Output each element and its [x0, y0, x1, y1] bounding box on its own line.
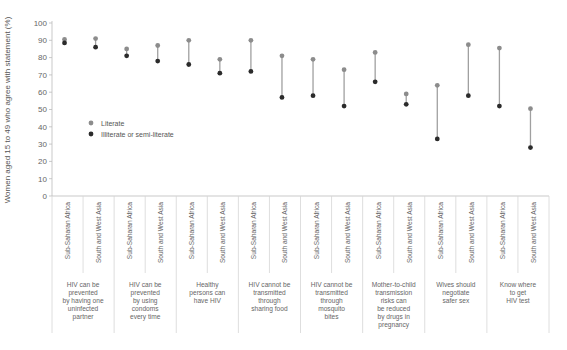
illiterate-point [280, 95, 285, 100]
literate-point [373, 50, 378, 55]
illiterate-point [528, 145, 533, 150]
group-label: HIV cannot betransmittedthroughsharing f… [249, 281, 291, 313]
illiterate-point [249, 69, 254, 74]
dumbbell [280, 53, 285, 99]
y-tick-label: 40 [38, 123, 47, 132]
region-label: South and West Asia [530, 202, 537, 263]
region-label: Sub-Saharan Africa [499, 202, 506, 260]
y-tick-label: 50 [38, 105, 47, 114]
region-label: South and West Asia [344, 202, 351, 263]
literate-point [342, 67, 347, 72]
illiterate-point [466, 93, 471, 98]
dumbbell [373, 50, 378, 84]
region-label: Sub-Saharan Africa [250, 202, 257, 260]
legend-label-literate: Literate [101, 120, 124, 127]
dumbbell [93, 36, 98, 49]
illiterate-point [311, 93, 316, 98]
literate-point [249, 38, 254, 43]
group-label: Mother-to-childtransmissionrisks canbe r… [372, 281, 416, 329]
region-label: South and West Asia [219, 202, 226, 263]
dumbbell [186, 38, 191, 67]
y-tick-label: 90 [38, 36, 47, 45]
illiterate-point [155, 59, 160, 64]
dumbbell [404, 92, 409, 107]
illiterate-point [497, 104, 502, 109]
illiterate-point [404, 102, 409, 107]
dumbbell [311, 57, 316, 98]
legend-label-illiterate: Illiterate or semi-literate [101, 131, 174, 138]
illiterate-point [62, 40, 67, 45]
region-label: Sub-Saharan Africa [375, 202, 382, 260]
legend-marker-illiterate [89, 132, 94, 137]
x-axis: Sub-Saharan AfricaSouth and West AsiaHIV… [52, 196, 549, 333]
y-tick-label: 0 [43, 192, 48, 201]
dumbbell [155, 43, 160, 63]
region-label: South and West Asia [157, 202, 164, 263]
region-label: South and West Asia [468, 202, 475, 263]
dumbbell [497, 46, 502, 109]
group-label: HIV cannot betransmittedthroughmosquitob… [311, 281, 353, 320]
dumbbell [528, 106, 533, 150]
group-label: Wives shouldnegotiatesafer sex [436, 281, 476, 304]
illiterate-point [93, 45, 98, 50]
literate-point [280, 53, 285, 58]
dumbbell [62, 37, 67, 45]
region-label: Sub-Saharan Africa [64, 202, 71, 260]
region-label: South and West Asia [95, 202, 102, 263]
illiterate-point [186, 62, 191, 67]
region-label: South and West Asia [281, 202, 288, 263]
region-label: Sub-Saharan Africa [126, 202, 133, 260]
y-tick-label: 30 [38, 140, 47, 149]
legend-marker-literate [89, 121, 94, 126]
illiterate-point [217, 71, 222, 76]
dumbbell [124, 47, 129, 59]
y-tick-label: 70 [38, 71, 47, 80]
y-tick-label: 60 [38, 88, 47, 97]
region-label: Sub-Saharan Africa [188, 202, 195, 260]
region-label: Sub-Saharan Africa [437, 202, 444, 260]
dumbbell [435, 83, 440, 141]
dumbbell [342, 67, 347, 108]
y-tick-label: 100 [34, 19, 48, 28]
literate-point [311, 57, 316, 62]
group-label: Healthypersons canhave HIV [189, 281, 225, 304]
y-axis-title: Women aged 15 to 49 who agree with state… [3, 16, 12, 203]
literate-point [186, 38, 191, 43]
literate-point [528, 106, 533, 111]
literate-point [435, 83, 440, 88]
illiterate-point [342, 104, 347, 109]
literate-point [217, 57, 222, 62]
region-label: South and West Asia [406, 202, 413, 263]
dumbbell [249, 38, 254, 74]
y-axis: 0102030405060708090100 [34, 19, 52, 201]
group-label: HIV can bepreventedby having oneuninfect… [63, 281, 104, 321]
literate-point [124, 47, 129, 52]
illiterate-point [373, 79, 378, 84]
legend: Literate Illiterate or semi-literate [89, 120, 174, 138]
illiterate-point [435, 137, 440, 142]
y-tick-label: 10 [38, 175, 47, 184]
dumbbell [217, 57, 222, 76]
y-tick-label: 20 [38, 157, 47, 166]
y-tick-label: 80 [38, 53, 47, 62]
literate-point [466, 42, 471, 47]
dumbbell [466, 42, 471, 98]
region-label: Sub-Saharan Africa [313, 202, 320, 260]
literate-point [155, 43, 160, 48]
group-label: Know whereto getHIV test [500, 281, 537, 304]
illiterate-point [124, 53, 129, 58]
literate-point [497, 46, 502, 51]
literate-point [93, 36, 98, 41]
dumbbell-chart: 0102030405060708090100 Women aged 15 to … [0, 0, 567, 350]
group-label: HIV can bepreventedby usingcondomsevery … [129, 281, 162, 321]
literate-point [404, 92, 409, 97]
